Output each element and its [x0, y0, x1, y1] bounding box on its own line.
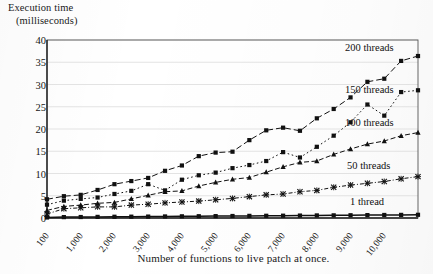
series-label-100-threads: 100 threads — [345, 117, 394, 128]
series-label-50-threads: 50 threads — [347, 160, 390, 171]
series-label-150-threads: 150 threads — [345, 84, 394, 95]
series-label-200-threads: 200 threads — [345, 42, 394, 53]
chart-figure: Execution time (milliseconds) 0510152025… — [0, 0, 433, 274]
x-axis-title: Number of functions to live patch at onc… — [0, 252, 433, 264]
series-label-1-thread: 1 thread — [350, 196, 384, 207]
